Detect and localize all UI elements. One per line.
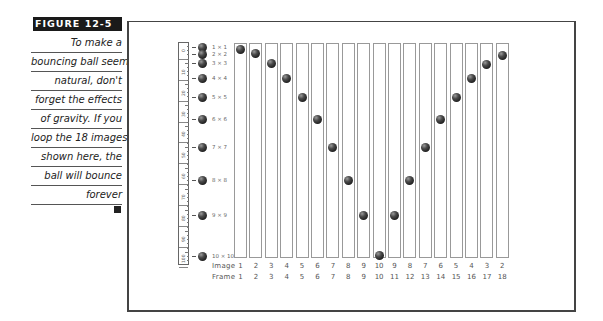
reference-dash bbox=[192, 54, 196, 55]
frame-number: 14 bbox=[433, 273, 448, 281]
image-number: 3 bbox=[479, 262, 494, 270]
ruler-tick bbox=[187, 80, 189, 81]
ruler-tick bbox=[187, 109, 189, 110]
ruler-tick bbox=[187, 248, 189, 249]
ruler-tick bbox=[187, 101, 189, 102]
frame-number: 8 bbox=[341, 273, 356, 281]
ruler-tick bbox=[187, 193, 189, 194]
frame-column bbox=[296, 43, 309, 258]
ruler-tick bbox=[187, 151, 189, 152]
reference-dash bbox=[192, 78, 196, 79]
frame-column bbox=[480, 43, 493, 258]
ruler-tick bbox=[187, 164, 189, 165]
ruler-tick bbox=[187, 218, 189, 219]
ruler-tick bbox=[185, 147, 189, 148]
reference-ball-label: 7 × 7 bbox=[212, 144, 227, 150]
frame-number: 18 bbox=[495, 273, 510, 281]
ball-icon bbox=[251, 49, 260, 58]
ruler-tick bbox=[185, 84, 189, 85]
ruler-tick bbox=[187, 67, 189, 68]
ruler-tick bbox=[187, 117, 189, 118]
ball-icon bbox=[390, 211, 399, 220]
ruler-tick bbox=[185, 231, 189, 232]
reference-ball-label: 10 × 10 bbox=[212, 253, 234, 259]
ruler-tick bbox=[187, 197, 189, 198]
ruler-tick bbox=[187, 92, 189, 93]
image-number: 6 bbox=[310, 262, 325, 270]
figure-label: FIGURE 12-5 bbox=[33, 17, 122, 31]
ruler-tick bbox=[187, 88, 189, 89]
end-of-caption-square-icon bbox=[114, 206, 121, 213]
ruler-tick bbox=[187, 227, 189, 228]
reference-dash bbox=[192, 256, 196, 257]
reference-ball-icon bbox=[198, 252, 207, 261]
ball-icon bbox=[482, 60, 491, 69]
ball-icon bbox=[267, 59, 276, 68]
reference-ball-icon bbox=[198, 176, 207, 185]
reference-ball-icon bbox=[198, 50, 207, 59]
reference-dash bbox=[192, 180, 196, 181]
reference-ball-icon bbox=[198, 211, 207, 220]
image-number: 2 bbox=[248, 262, 263, 270]
image-number: 8 bbox=[341, 262, 356, 270]
image-row-label: Image bbox=[212, 262, 235, 270]
image-number: 3 bbox=[264, 262, 279, 270]
ruler-tick bbox=[185, 105, 189, 106]
image-number: 1 bbox=[233, 262, 248, 270]
ruler-tick bbox=[187, 214, 189, 215]
caption-line: To make a bbox=[31, 34, 122, 53]
ruler-tick bbox=[187, 75, 189, 76]
ruler-tick bbox=[187, 50, 189, 51]
ruler-tick bbox=[187, 143, 189, 144]
ruler-tick bbox=[185, 63, 189, 64]
ruler-tick bbox=[187, 239, 189, 240]
ruler-tick bbox=[187, 235, 189, 236]
caption-line: forget the effects bbox=[31, 91, 122, 110]
image-number: 8 bbox=[402, 262, 417, 270]
ruler-tick bbox=[187, 185, 189, 186]
reference-dash bbox=[192, 47, 196, 48]
image-number: 9 bbox=[387, 262, 402, 270]
image-number: 5 bbox=[295, 262, 310, 270]
image-number: 4 bbox=[279, 262, 294, 270]
caption-line: natural, don't bbox=[31, 72, 122, 91]
frame-column bbox=[265, 43, 278, 258]
frame-number: 10 bbox=[372, 273, 387, 281]
ruler-tick bbox=[187, 243, 189, 244]
caption-line: ball will bounce bbox=[31, 167, 122, 186]
ruler-tick bbox=[187, 71, 189, 72]
frame-column bbox=[249, 43, 262, 258]
ball-icon bbox=[328, 143, 337, 152]
image-number: 4 bbox=[464, 262, 479, 270]
caption-line: loop the 18 images bbox=[31, 129, 122, 148]
ball-icon bbox=[344, 176, 353, 185]
image-number: 2 bbox=[495, 262, 510, 270]
ruler-tick bbox=[187, 54, 189, 55]
ball-icon bbox=[313, 115, 322, 124]
ruler-tick bbox=[185, 210, 189, 211]
vertical-ruler: 0102030405060708090100 bbox=[178, 42, 189, 265]
caption-line: shown here, the bbox=[31, 148, 122, 167]
ball-icon bbox=[405, 176, 414, 185]
ruler-tick bbox=[185, 168, 189, 169]
ball-icon bbox=[359, 211, 368, 220]
frame-number: 5 bbox=[295, 273, 310, 281]
frame-number: 11 bbox=[387, 273, 402, 281]
frame-column bbox=[311, 43, 324, 258]
ruler-tick bbox=[187, 113, 189, 114]
ruler-tick bbox=[187, 172, 189, 173]
ruler-tick bbox=[187, 222, 189, 223]
frame-column bbox=[373, 43, 386, 258]
image-number: 10 bbox=[372, 262, 387, 270]
reference-ball-icon bbox=[198, 93, 207, 102]
ruler-tick bbox=[185, 189, 189, 190]
reference-ball-icon bbox=[198, 74, 207, 83]
frame-column bbox=[234, 43, 247, 258]
ruler-tick bbox=[187, 46, 189, 47]
reference-ball-icon bbox=[198, 115, 207, 124]
reference-ball-label: 3 × 3 bbox=[212, 60, 227, 66]
ball-icon bbox=[467, 74, 476, 83]
frame-number: 13 bbox=[418, 273, 433, 281]
frame-number: 12 bbox=[402, 273, 417, 281]
frame-number: 9 bbox=[356, 273, 371, 281]
